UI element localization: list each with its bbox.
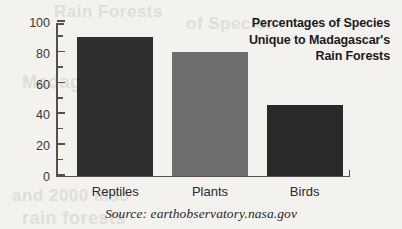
x-axis-endcap: [349, 170, 351, 177]
x-axis-label-reptiles: Reptiles: [77, 185, 153, 198]
y-axis-tick-minor: [57, 66, 63, 68]
y-axis-tick-label: 80: [10, 48, 50, 61]
chart-figure: Rain Forests of Species Madagascar and 2…: [0, 0, 402, 229]
y-axis-tick-minor: [57, 159, 63, 161]
y-axis-line: [56, 23, 58, 177]
y-axis-tick-minor: [57, 128, 63, 130]
bar-reptiles: [77, 37, 153, 176]
y-axis-tick-major: [57, 143, 65, 145]
source-caption: Source: earthobservatory.nasa.gov: [0, 206, 402, 222]
x-axis-label-plants: Plants: [172, 185, 248, 198]
scan-artifact-1: Rain Forests: [54, 2, 163, 22]
y-axis-tick-label: 0: [10, 171, 50, 184]
bar-plants: [172, 52, 248, 175]
y-axis-tick-major: [57, 82, 65, 84]
y-axis-tick-major: [57, 20, 65, 22]
x-axis-line: [56, 176, 350, 178]
y-axis-tick-label: 60: [10, 78, 50, 91]
y-axis-tick-minor: [57, 35, 63, 37]
y-axis-tick-major: [57, 174, 65, 176]
y-axis-endcap: [56, 23, 64, 25]
bar-birds: [267, 105, 343, 176]
y-axis-tick-label: 100: [10, 17, 50, 30]
y-axis-tick-label: 20: [10, 140, 50, 153]
y-axis-tick-label: 40: [10, 109, 50, 122]
x-axis-label-birds: Birds: [267, 185, 343, 198]
plot-area: [56, 23, 350, 177]
y-axis-tick-minor: [57, 97, 63, 99]
y-axis-tick-major: [57, 112, 65, 114]
y-axis-tick-major: [57, 51, 65, 53]
